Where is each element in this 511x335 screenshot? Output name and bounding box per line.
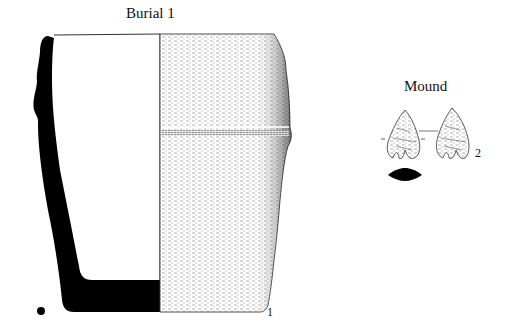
projectile-point-cross-section <box>388 168 422 181</box>
projectile-point-face-a <box>381 110 425 159</box>
projectile-point-face-b <box>436 108 469 159</box>
vessel-rim-band <box>161 130 289 136</box>
vessel-profile-section <box>33 34 160 315</box>
section-marker-icon <box>37 307 45 315</box>
figure-drawing <box>0 0 511 335</box>
vessel-exterior-view <box>160 34 291 312</box>
